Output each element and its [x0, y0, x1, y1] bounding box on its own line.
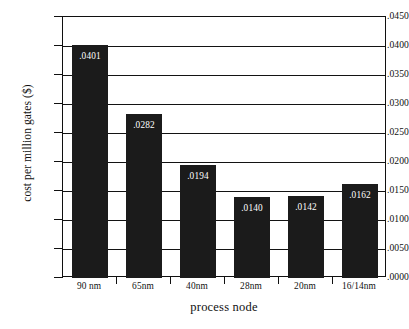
y-axis-tick [54, 219, 63, 220]
x-axis-category-label: 40nm [170, 281, 224, 291]
gridline [63, 162, 385, 163]
y-axis-tick-label: .0300 [361, 97, 409, 108]
plot-area: .0401.0282.0194.0140.0142.0162 [62, 16, 386, 277]
x-axis-category-label: 65nm [116, 281, 170, 291]
y-axis-tick-label: .0100 [361, 213, 409, 224]
bar: .0401 [72, 45, 107, 278]
gridline [63, 46, 385, 47]
bar-value-label: .0401 [72, 51, 107, 61]
y-axis-tick-label: .0250 [361, 126, 409, 137]
gridline [63, 220, 385, 221]
gridline [63, 75, 385, 76]
bar-value-label: .0142 [288, 202, 323, 212]
bar-value-label: .0140 [234, 203, 269, 213]
bar: .0140 [234, 197, 269, 278]
y-axis-tick [54, 277, 63, 278]
x-axis-category-label: 16/14nm [332, 281, 386, 291]
y-axis-tick [54, 74, 63, 75]
bar: .0194 [180, 165, 215, 278]
bar: .0162 [342, 184, 377, 278]
y-axis-tick-label: .0450 [361, 10, 409, 21]
y-axis-tick-label: .0150 [361, 184, 409, 195]
x-axis-category-label: 28nm [224, 281, 278, 291]
x-axis-category-label: 90 nm [62, 281, 116, 291]
y-axis-tick-label: .0200 [361, 155, 409, 166]
y-axis-tick [54, 103, 63, 104]
y-axis-tick [54, 132, 63, 133]
bar: .0142 [288, 196, 323, 278]
bar-value-label: .0194 [180, 171, 215, 181]
bar: .0282 [126, 114, 161, 278]
x-axis-category-label: 20nm [278, 281, 332, 291]
y-axis-tick-label: .0050 [361, 242, 409, 253]
y-axis-tick [54, 248, 63, 249]
y-axis-tick-label: .0400 [361, 39, 409, 50]
gridline [63, 104, 385, 105]
y-axis-tick [54, 190, 63, 191]
gridline [63, 133, 385, 134]
gridline [63, 191, 385, 192]
y-axis-tick [54, 16, 63, 17]
bar-value-label: .0282 [126, 120, 161, 130]
bar-chart: cost per million gates ($) .0401.0282.01… [0, 0, 409, 329]
y-axis-tick [54, 45, 63, 46]
y-axis-title: cost per million gates ($) [21, 43, 33, 243]
gridline [63, 249, 385, 250]
y-axis-tick [54, 161, 63, 162]
x-axis-title: process node [62, 300, 386, 315]
y-axis-tick-label: .0350 [361, 68, 409, 79]
